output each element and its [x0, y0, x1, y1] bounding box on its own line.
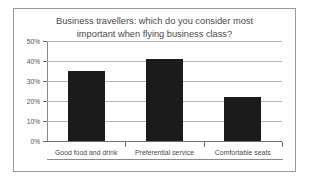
gridline	[47, 41, 282, 42]
y-axis-label: 40%	[14, 58, 40, 65]
y-axis-label: 20%	[14, 98, 40, 105]
plot-area	[47, 41, 282, 141]
chart-title-line-1: Business travellers: which do you consid…	[22, 15, 287, 28]
bar[interactable]	[68, 71, 105, 141]
y-axis-label: 10%	[14, 118, 40, 125]
chart-title: Business travellers: which do you consid…	[22, 15, 287, 40]
chart-frame: Business travellers: which do you consid…	[13, 8, 296, 172]
x-axis-category-label: Preferential service	[125, 148, 203, 157]
y-axis-label: 0%	[14, 138, 40, 145]
x-axis-category-label: Good food and drink	[47, 148, 125, 157]
x-axis-baseline	[47, 159, 283, 160]
x-axis-tick	[125, 142, 126, 147]
bar[interactable]	[146, 59, 183, 141]
chart-title-line-2: important when flying business class?	[22, 28, 287, 41]
y-axis-label: 50%	[14, 38, 40, 45]
x-axis-tick	[282, 142, 283, 147]
bar[interactable]	[224, 97, 261, 141]
x-axis-category-label: Comfortable seats	[204, 148, 282, 157]
x-axis-tick	[204, 142, 205, 147]
x-axis: Good food and drinkPreferential serviceC…	[47, 142, 283, 161]
y-axis-label: 30%	[14, 78, 40, 85]
